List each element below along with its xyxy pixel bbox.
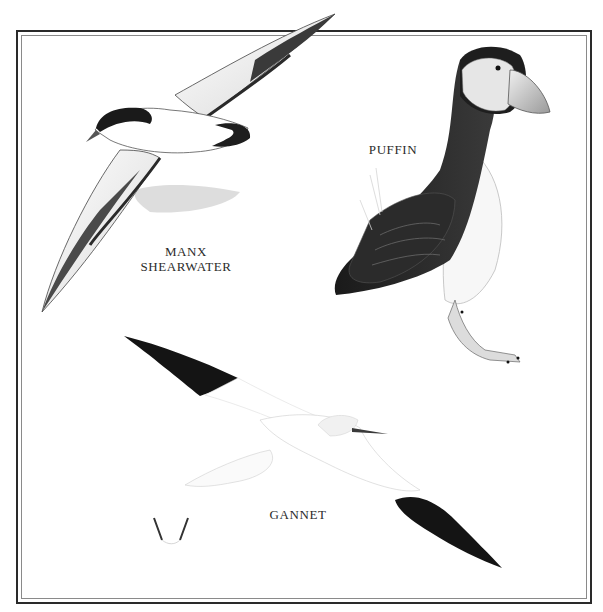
puffin-drawing xyxy=(335,47,550,364)
label-line: PUFFIN xyxy=(358,142,428,157)
label-line: GANNET xyxy=(258,507,338,522)
label-line: MANX xyxy=(136,244,236,259)
gannet-drawing xyxy=(124,336,502,568)
label-gannet: GANNET xyxy=(258,507,338,522)
label-manx-shearwater: MANX SHEARWATER xyxy=(136,244,236,274)
label-puffin: PUFFIN xyxy=(358,142,428,157)
label-line: SHEARWATER xyxy=(136,259,236,274)
